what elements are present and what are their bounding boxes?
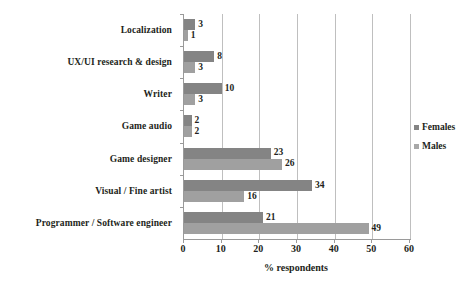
- gridline: [410, 14, 411, 239]
- bar-value-label: 34: [315, 181, 325, 191]
- legend-swatch-females: [414, 125, 419, 130]
- legend: FemalesMales: [414, 122, 455, 151]
- legend-label: Females: [422, 122, 455, 132]
- bar-males[interactable]: [184, 94, 195, 105]
- bar-row: 1: [184, 30, 410, 41]
- bar-group: 2149: [184, 207, 410, 239]
- plot-area: 318310322232634162149: [183, 14, 411, 239]
- legend-label: Males: [422, 141, 446, 151]
- bar-group: 83: [184, 46, 410, 78]
- bar-value-label: 26: [285, 159, 295, 169]
- bar-row: 2: [184, 126, 410, 137]
- bar-value-label: 8: [217, 52, 222, 62]
- x-tick-label: 10: [216, 243, 226, 254]
- bar-females[interactable]: [184, 180, 312, 191]
- bar-males[interactable]: [184, 223, 369, 234]
- bar-males[interactable]: [184, 126, 192, 137]
- category-tick: [180, 78, 184, 79]
- category-tick: [180, 14, 184, 15]
- category-label: Writer: [0, 78, 178, 110]
- bar-females[interactable]: [184, 115, 192, 126]
- category-label: Localization: [0, 14, 178, 46]
- bar-value-label: 16: [247, 192, 257, 202]
- bar-value-label: 1: [191, 31, 196, 41]
- bar-value-label: 3: [198, 63, 203, 73]
- bar-males[interactable]: [184, 191, 244, 202]
- bar-group: 3416: [184, 175, 410, 207]
- bar-row: 3: [184, 19, 410, 30]
- bar-row: 26: [184, 159, 410, 170]
- category-tick: [180, 110, 184, 111]
- category-label: Visual / Fine artist: [0, 175, 178, 207]
- legend-swatch-males: [414, 144, 419, 149]
- x-tick-label: 20: [253, 243, 263, 254]
- bar-row: 2: [184, 115, 410, 126]
- bar-row: 34: [184, 180, 410, 191]
- bar-group: 31: [184, 14, 410, 46]
- x-tick-label: 50: [366, 243, 376, 254]
- x-axis-title: % respondents: [183, 262, 409, 273]
- bar-females[interactable]: [184, 212, 263, 223]
- bar-value-label: 2: [195, 116, 200, 126]
- bar-row: 49: [184, 223, 410, 234]
- legend-item[interactable]: Males: [414, 141, 455, 151]
- category-label: Programmer / Software engineer: [0, 207, 178, 239]
- bar-row: 3: [184, 62, 410, 73]
- x-axis-ticks: 0102030405060: [183, 239, 409, 253]
- bar-value-label: 2: [195, 127, 200, 137]
- category-tick: [180, 143, 184, 144]
- category-tick: [180, 175, 184, 176]
- bar-row: 23: [184, 148, 410, 159]
- legend-item[interactable]: Females: [414, 122, 455, 132]
- category-label: UX/UI research & design: [0, 46, 178, 78]
- bar-row: 3: [184, 94, 410, 105]
- bar-females[interactable]: [184, 83, 222, 94]
- bar-females[interactable]: [184, 19, 195, 30]
- bar-row: 10: [184, 83, 410, 94]
- bar-groups: 318310322232634162149: [184, 14, 410, 239]
- bar-value-label: 3: [198, 20, 203, 30]
- category-label: Game audio: [0, 110, 178, 142]
- bar-group: 2326: [184, 143, 410, 175]
- bar-chart: LocalizationUX/UI research & designWrite…: [0, 0, 473, 282]
- bar-value-label: 21: [266, 213, 276, 223]
- category-axis-labels: LocalizationUX/UI research & designWrite…: [0, 14, 178, 239]
- category-label: Game designer: [0, 143, 178, 175]
- bar-females[interactable]: [184, 51, 214, 62]
- category-tick: [180, 46, 184, 47]
- bar-value-label: 23: [274, 148, 284, 158]
- bar-males[interactable]: [184, 30, 188, 41]
- bar-group: 103: [184, 78, 410, 110]
- category-tick: [180, 207, 184, 208]
- bar-value-label: 10: [225, 84, 235, 94]
- bar-row: 16: [184, 191, 410, 202]
- bar-males[interactable]: [184, 159, 282, 170]
- bar-row: 8: [184, 51, 410, 62]
- bar-value-label: 49: [372, 224, 382, 234]
- x-tick-label: 0: [181, 243, 186, 254]
- bar-males[interactable]: [184, 62, 195, 73]
- bar-females[interactable]: [184, 148, 271, 159]
- x-tick-label: 40: [329, 243, 339, 254]
- bar-value-label: 3: [198, 95, 203, 105]
- bar-group: 22: [184, 110, 410, 142]
- bar-row: 21: [184, 212, 410, 223]
- x-tick-label: 30: [291, 243, 301, 254]
- x-tick-label: 60: [404, 243, 414, 254]
